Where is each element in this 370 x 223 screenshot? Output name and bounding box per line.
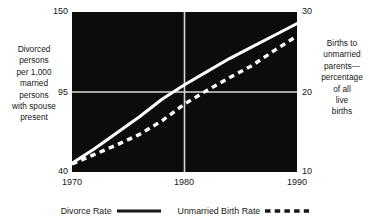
- legend-entry-unmarried-birth-rate: Unmarried Birth Rate: [178, 206, 310, 216]
- right-axis-caption: Births to unmarried parents— percentage …: [316, 38, 368, 118]
- legend-label-divorce-rate: Divorce Rate: [61, 206, 112, 216]
- x-axis-tick-1980: 1980: [166, 177, 202, 187]
- plot-area: [72, 12, 297, 172]
- chart-figure: Divorced persons per 1,000 married perso…: [0, 0, 370, 223]
- left-axis-caption: Divorced persons per 1,000 married perso…: [2, 44, 66, 124]
- x-axis-tick-1990: 1990: [279, 177, 315, 187]
- x-axis-tick-1970: 1970: [54, 177, 90, 187]
- dashed-line-icon: [265, 207, 309, 215]
- legend-label-unmarried-birth-rate: Unmarried Birth Rate: [178, 206, 261, 216]
- right-axis-tick-10: 10: [302, 166, 324, 176]
- gridlines: [72, 12, 297, 172]
- right-axis-tick-20: 20: [302, 87, 324, 97]
- left-axis-tick-40: 40: [48, 166, 68, 176]
- left-axis-tick-150: 150: [48, 6, 68, 16]
- solid-line-icon: [117, 207, 161, 215]
- left-axis-tick-95: 95: [48, 87, 68, 97]
- legend-entry-divorce-rate: Divorce Rate: [61, 206, 161, 216]
- right-axis-tick-30: 30: [302, 6, 324, 16]
- plot-svg: [72, 12, 297, 172]
- chart-legend: Divorce Rate Unmarried Birth Rate: [0, 202, 370, 220]
